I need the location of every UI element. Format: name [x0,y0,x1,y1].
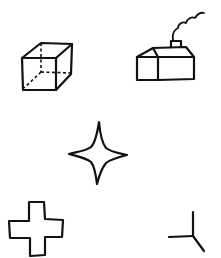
junction-icon [169,212,204,251]
cross-icon [9,202,63,256]
drawing-canvas [0,0,221,258]
cube-icon [22,43,72,90]
line-drawings [0,0,221,258]
house-icon [137,13,204,80]
star-icon [69,122,127,184]
